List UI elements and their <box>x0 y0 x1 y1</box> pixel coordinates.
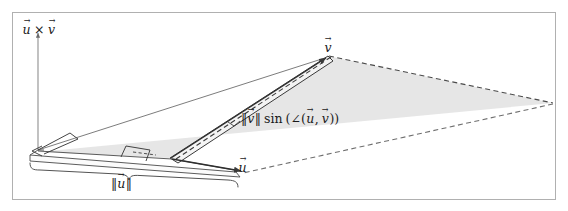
u-norm-glyph: u <box>117 176 126 191</box>
u-magnitude-brace-label: ‖u‖ <box>111 176 132 191</box>
cross-product-axis-label: u×v <box>22 22 56 37</box>
vector-v-label: v <box>324 40 332 55</box>
height-u-glyph: u <box>306 111 315 126</box>
height-bar-close: ‖ <box>255 111 261 126</box>
cross-label-v: v <box>48 22 56 37</box>
figure-container: u×v v ‖v‖sin(∠(u,v)) u ‖u‖ <box>0 0 568 211</box>
u-norm-bar-close: ‖ <box>126 176 132 191</box>
height-comma: , <box>315 111 319 126</box>
height-paren-close: ) <box>334 111 339 126</box>
height-v2-glyph: v <box>321 111 329 126</box>
height-sin: sin <box>264 111 282 126</box>
cross-label-operator: × <box>34 22 44 37</box>
angle-icon: ∠ <box>290 111 300 126</box>
cross-label-u: u <box>22 22 31 37</box>
u-label-glyph: u <box>238 160 247 175</box>
vector-u-label: u <box>238 160 247 175</box>
diagram-canvas <box>0 0 568 211</box>
height-v-glyph: v <box>247 111 255 126</box>
height-expression-label: ‖v‖sin(∠(u,v)) <box>241 111 339 126</box>
v-label-glyph: v <box>324 40 332 55</box>
